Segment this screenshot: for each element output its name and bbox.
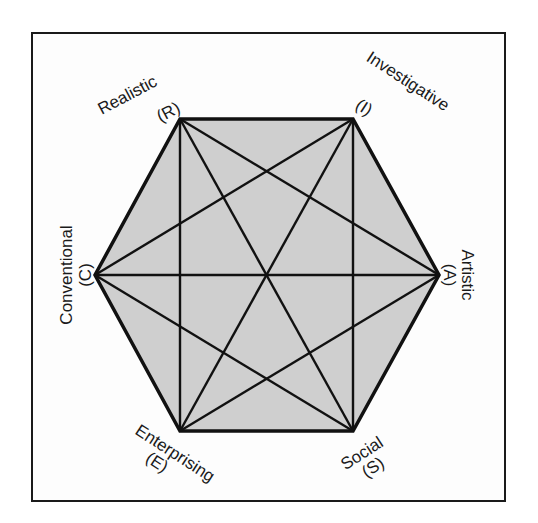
label-realistic-name: Realistic bbox=[95, 71, 161, 118]
label-investigative-name: Investigative bbox=[363, 48, 453, 115]
label-investigative: Investigative (I) bbox=[352, 48, 453, 120]
label-conventional-code: (C) bbox=[76, 263, 95, 287]
label-artistic-name: Artistic bbox=[458, 250, 477, 302]
label-artistic-code: (A) bbox=[440, 264, 459, 287]
riasec-hexagon-diagram: Realistic (R) Investigative (I) Artistic… bbox=[0, 0, 538, 523]
label-conventional: Conventional (C) bbox=[57, 225, 95, 324]
hexagon-shape bbox=[95, 119, 439, 431]
label-artistic: Artistic (A) bbox=[440, 250, 477, 302]
label-social: Social (S) bbox=[337, 433, 387, 482]
label-investigative-code: (I) bbox=[352, 95, 376, 120]
label-realistic: Realistic (R) bbox=[95, 71, 184, 126]
label-conventional-name: Conventional bbox=[57, 225, 76, 324]
